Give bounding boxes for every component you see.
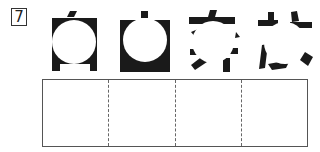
answer-cell-3[interactable] bbox=[176, 80, 242, 146]
answer-cell-2[interactable] bbox=[109, 80, 175, 146]
answer-box bbox=[42, 79, 308, 147]
answer-cell-1[interactable] bbox=[43, 80, 109, 146]
obscured-kanji-1 bbox=[52, 11, 97, 71]
obscured-glyphs bbox=[0, 0, 320, 78]
obscured-kanji-2 bbox=[120, 11, 170, 72]
answer-cell-4[interactable] bbox=[242, 80, 307, 146]
obscured-kanji-3 bbox=[189, 10, 240, 72]
obscured-kanji-4 bbox=[258, 11, 313, 70]
